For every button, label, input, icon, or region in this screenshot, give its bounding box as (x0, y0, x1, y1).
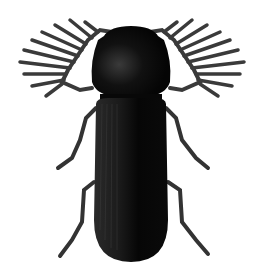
pronotum (92, 26, 171, 96)
beetle-illustration (0, 0, 262, 273)
beetle-drawing (0, 0, 262, 273)
